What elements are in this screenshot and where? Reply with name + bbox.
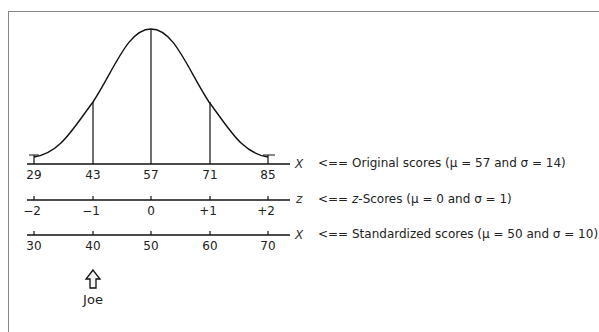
tick-label: 29 bbox=[26, 169, 41, 181]
tick-label: 0 bbox=[147, 205, 155, 217]
joe-label: Joe bbox=[83, 293, 103, 306]
tick-label: 40 bbox=[85, 240, 100, 252]
axis-variable: X bbox=[295, 229, 303, 241]
tick-label: −2 bbox=[23, 205, 41, 217]
tick-label: +2 bbox=[257, 205, 275, 217]
tick-label: 57 bbox=[143, 169, 158, 181]
axis-description: <== Standardized scores (μ = 50 and σ = … bbox=[318, 228, 598, 240]
tick-label: 85 bbox=[260, 169, 275, 181]
tick-label: +1 bbox=[199, 205, 217, 217]
axis-description: <== z-Scores (μ = 0 and σ = 1) bbox=[318, 193, 512, 205]
tick-label: −1 bbox=[82, 205, 100, 217]
tick-label: 50 bbox=[143, 240, 158, 252]
axis-variable: X bbox=[295, 158, 303, 170]
up-arrow-icon bbox=[86, 270, 100, 288]
tick-label: 60 bbox=[202, 240, 217, 252]
axis-variable: z bbox=[296, 193, 302, 205]
tick-label: 70 bbox=[260, 240, 275, 252]
tick-label: 71 bbox=[202, 169, 217, 181]
tick-label: 43 bbox=[85, 169, 100, 181]
axis-description: <== Original scores (μ = 57 and σ = 14) bbox=[318, 157, 566, 169]
tick-label: 30 bbox=[26, 240, 41, 252]
